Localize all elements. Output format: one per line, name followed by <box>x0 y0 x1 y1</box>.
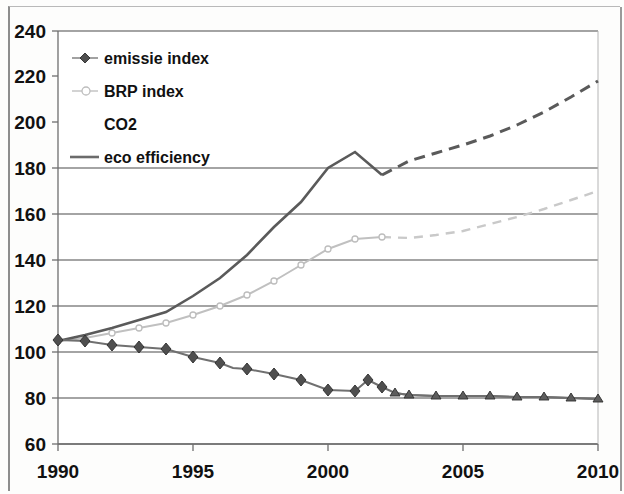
legend-item-co2[interactable]: CO2 <box>104 116 137 133</box>
x-axis <box>58 444 598 451</box>
chart-figure: 240 220 200 180 160 140 120 100 80 60 19… <box>0 0 624 494</box>
x-tick-labels: 1990 1995 2000 2005 2010 <box>37 461 619 482</box>
y-tick-label: 160 <box>14 204 46 225</box>
legend-label: BRP index <box>104 83 184 100</box>
y-tick-label: 240 <box>14 21 46 42</box>
x-tick-label: 2005 <box>442 461 485 482</box>
x-tick-label: 1995 <box>172 461 215 482</box>
y-tick-label: 60 <box>25 434 46 455</box>
y-tick-labels: 240 220 200 180 160 140 120 100 80 60 <box>14 21 46 455</box>
y-tick-label: 220 <box>14 66 46 87</box>
y-axis <box>52 31 58 444</box>
scanned-page: 240 220 200 180 160 140 120 100 80 60 19… <box>0 0 624 494</box>
y-tick-label: 200 <box>14 112 46 133</box>
y-tick-label: 80 <box>25 388 46 409</box>
x-tick-label: 2000 <box>307 461 349 482</box>
legend-label: eco efficiency <box>104 149 210 166</box>
circle-marker-icon <box>82 87 90 95</box>
y-tick-label: 180 <box>14 158 46 179</box>
y-tick-label: 120 <box>14 296 46 317</box>
line-chart: 240 220 200 180 160 140 120 100 80 60 19… <box>0 0 624 494</box>
y-tick-label: 140 <box>14 250 46 271</box>
legend-label: CO2 <box>104 116 137 133</box>
x-tick-label: 1990 <box>37 461 79 482</box>
legend-label: emissie index <box>104 50 209 67</box>
y-tick-label: 100 <box>14 342 46 363</box>
x-tick-label: 2010 <box>577 461 619 482</box>
